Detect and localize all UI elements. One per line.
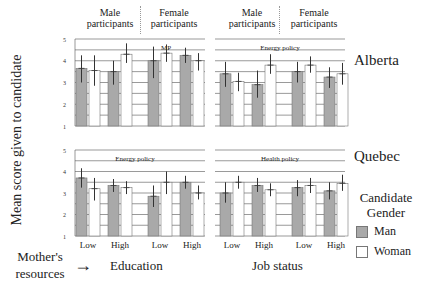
y-tick-label: 4 bbox=[63, 58, 66, 64]
bar-woman bbox=[233, 182, 244, 236]
y-tick-label: 2 bbox=[63, 102, 66, 108]
legend-swatch-woman bbox=[356, 246, 368, 258]
y-tick-label: 1 bbox=[63, 234, 66, 240]
bar-woman bbox=[265, 65, 276, 126]
panel-title: Energy policy bbox=[115, 155, 155, 163]
bar-woman bbox=[121, 188, 132, 236]
row-label-alberta: Alberta bbox=[354, 52, 399, 69]
y-tick-label: 2 bbox=[63, 212, 66, 218]
x-tick-label: Low bbox=[152, 240, 169, 250]
y-tick-label: 5 bbox=[63, 148, 66, 154]
panel-alberta-job-status: Energy policy bbox=[215, 39, 348, 126]
legend-item-man: Man bbox=[356, 224, 396, 239]
x-tick-label: High bbox=[327, 240, 346, 250]
legend-swatch-man bbox=[356, 226, 368, 238]
panel-quebec-education: 12345Energy policyLowHighLowHigh bbox=[63, 148, 205, 251]
bar-woman bbox=[305, 185, 316, 236]
y-tick-label: 3 bbox=[63, 191, 66, 197]
y-tick-label: 3 bbox=[63, 80, 66, 86]
panel-title: Health policy bbox=[261, 155, 299, 163]
panel-title: Energy policy bbox=[260, 44, 300, 52]
y-tick-label: 1 bbox=[63, 124, 66, 130]
bar-woman bbox=[265, 190, 276, 236]
bar-woman bbox=[161, 53, 172, 126]
bar-woman bbox=[305, 65, 316, 126]
arrow-right-icon: → bbox=[74, 255, 92, 276]
bar-woman bbox=[337, 183, 348, 236]
legend-title: Candidate Gender bbox=[348, 190, 424, 220]
legend-item-woman: Woman bbox=[356, 244, 411, 259]
column-label-job-status: Job status bbox=[252, 258, 303, 274]
bar-man bbox=[252, 185, 263, 236]
x-tick-label: High bbox=[111, 240, 130, 250]
bar-man bbox=[180, 182, 191, 236]
x-tick-label: High bbox=[183, 240, 202, 250]
legend-label-woman: Woman bbox=[374, 244, 411, 259]
legend-label-man: Man bbox=[374, 224, 396, 239]
x-tick-label: Low bbox=[80, 240, 97, 250]
x-tick-label: Low bbox=[224, 240, 241, 250]
y-tick-label: 5 bbox=[63, 37, 66, 43]
legend-title-text: Candidate Gender bbox=[354, 190, 418, 220]
x-tick-label: Low bbox=[296, 240, 313, 250]
row-label-quebec: Quebec bbox=[354, 148, 400, 165]
bar-man bbox=[180, 55, 191, 126]
mothers-resources-label: Mother's resources bbox=[10, 248, 70, 282]
panel-quebec-job-status: Health policyLowHighLowHigh bbox=[215, 150, 348, 250]
bar-man bbox=[108, 185, 119, 236]
bar-woman bbox=[121, 54, 132, 126]
y-tick-label: 4 bbox=[63, 169, 66, 175]
x-tick-label: High bbox=[255, 240, 274, 250]
panel-alberta-education: 12345MP bbox=[63, 37, 205, 130]
column-label-education: Education bbox=[110, 258, 163, 274]
